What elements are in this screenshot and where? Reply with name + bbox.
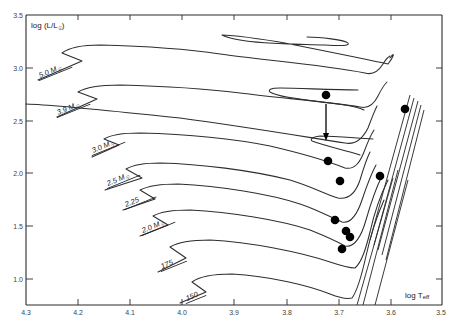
red-giant-branch-lines	[357, 95, 424, 305]
mass-label-5-0: 5.0 M☉	[36, 59, 73, 81]
evolutionary-tracks	[26, 35, 393, 303]
track-top-loop	[222, 35, 393, 64]
x-tick-label: 4.2	[73, 309, 83, 316]
mass-labels: 5.0 M☉ 3.9 M☉ 3.0 M☉ 2.5 M☉ 2.25 2.0 M☉ …	[36, 59, 207, 304]
svg-text:5.0 M☉: 5.0 M☉	[37, 63, 63, 81]
x-tick-label: 3.6	[386, 309, 396, 316]
y-tick-label: 2.5	[13, 118, 23, 125]
star-marker	[331, 216, 340, 225]
track-3-0-upper	[26, 104, 377, 143]
x-tick-label: 4.0	[177, 309, 187, 316]
star-marker	[336, 177, 345, 186]
y-axis-title: log (L/L☉)	[31, 21, 65, 31]
x-tick-label: 3.7	[334, 309, 344, 316]
evolution-arrow	[323, 104, 329, 141]
star-marker	[324, 157, 333, 166]
mass-label-2-0: 2.0 M☉	[139, 214, 176, 236]
svg-text:log (L/L☉): log (L/L☉)	[31, 21, 65, 31]
x-tick-label: 3.5	[436, 309, 446, 316]
y-tick-label: 2.0	[13, 170, 23, 177]
plot-frame	[26, 15, 442, 305]
x-tick-label: 3.8	[282, 309, 292, 316]
track-1-50-msun	[180, 200, 384, 303]
x-tick-label: 4.1	[125, 309, 135, 316]
star-marker	[338, 245, 347, 254]
mass-label-3-9: 3.9 M☉	[54, 96, 91, 118]
star-marker	[376, 172, 385, 181]
x-tick-label: 4.3	[21, 309, 31, 316]
svg-text:3.9 M☉: 3.9 M☉	[55, 100, 81, 118]
observed-stars	[322, 91, 410, 254]
mass-label-2-5: 2.5 M☉	[104, 167, 141, 189]
track-1-75-msun	[158, 180, 388, 272]
star-marker	[401, 105, 410, 114]
track-3-9-msun	[57, 82, 387, 117]
star-marker	[322, 91, 331, 100]
svg-text:log Teff: log Teff	[405, 291, 430, 300]
track-3-9-loop	[269, 88, 364, 110]
x-tick-labels: 4.3 4.2 4.1 4.0 3.9 3.8 3.7 3.6 3.5	[21, 309, 446, 316]
y-tick-label: 1.5	[13, 223, 23, 230]
y-tick-label: 3.5	[13, 12, 23, 19]
svg-text:3.0 M☉: 3.0 M☉	[90, 138, 116, 156]
x-tick-label: 3.9	[229, 309, 239, 316]
mass-label-2-25: 2.25	[122, 189, 157, 210]
track-5-0-msun	[38, 45, 390, 80]
svg-text:2.0 M☉: 2.0 M☉	[139, 218, 166, 236]
x-ticks	[78, 15, 391, 305]
y-tick-label: 1.0	[13, 276, 23, 283]
y-tick-labels: 3.5 3.0 2.5 2.0 1.5 1.0	[13, 12, 23, 283]
track-2-25-msun	[123, 165, 376, 222]
track-2-0-msun	[140, 176, 382, 246]
y-tick-label: 3.0	[13, 65, 23, 72]
hr-diagram-chart: 4.3 4.2 4.1 4.0 3.9 3.8 3.7 3.6 3.5 3.5 …	[0, 0, 461, 328]
star-marker	[346, 233, 355, 242]
x-axis-title: log Teff	[405, 291, 430, 300]
